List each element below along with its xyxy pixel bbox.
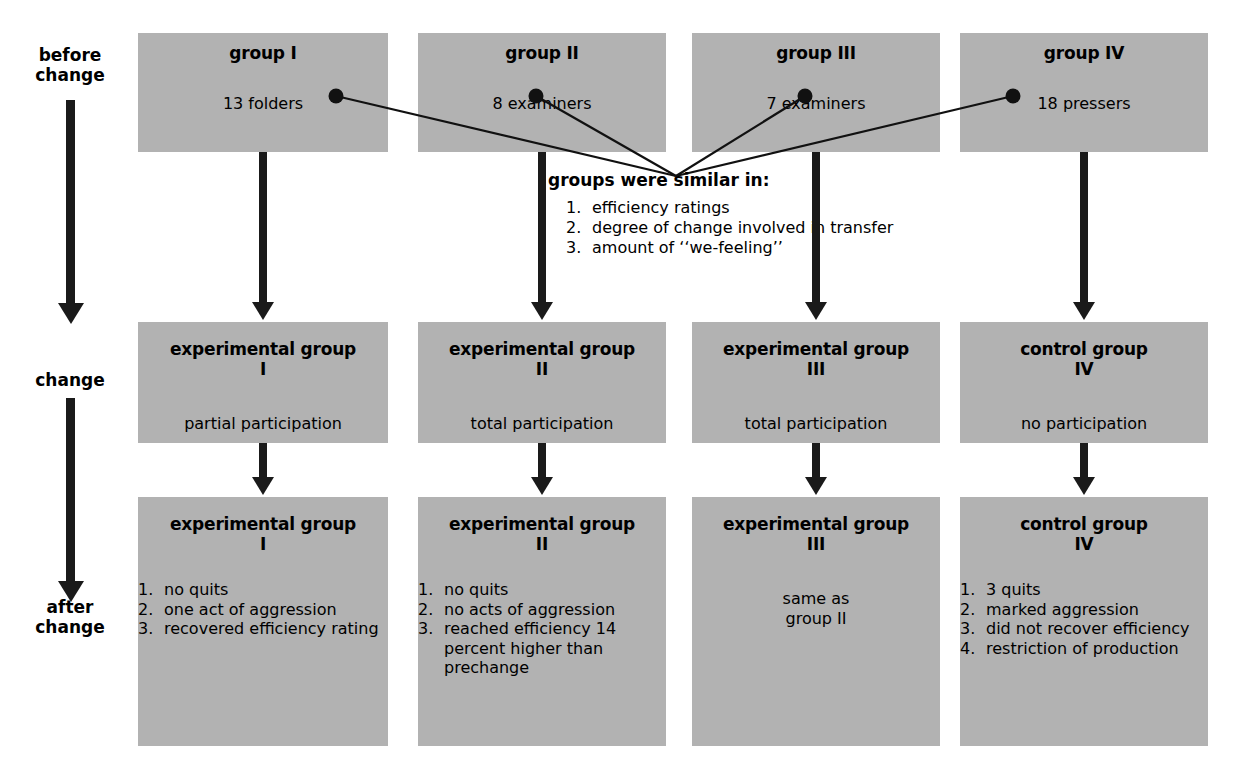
callout-list-item: 3. amount of ‘‘we-feeling’’: [566, 238, 898, 258]
callout-list: 1. efficiency ratings 2. degree of chang…: [548, 198, 898, 258]
timeline-label-before-change: before change: [10, 46, 130, 85]
box-title-numeral: III: [807, 359, 825, 379]
box-before-group-4: group IV 18 pressers: [960, 33, 1208, 152]
box-subtext: 18 pressers: [960, 94, 1208, 113]
outcome-list-item: 1. no quits: [138, 580, 388, 600]
box-title-text: experimental group: [723, 514, 909, 534]
box-subtext: 7 examiners: [692, 94, 940, 113]
list-text: efficiency ratings: [592, 198, 730, 217]
box-title: control group IV: [960, 339, 1208, 379]
outcome-list-item: 1. no quits: [418, 580, 666, 600]
list-text: degree of change involved in transfer: [592, 218, 893, 237]
outcome-list-item: 2. no acts of aggression: [418, 600, 666, 620]
outcome-list-item: 3. reached efficiency 14 percent higher …: [418, 619, 666, 678]
diagram-canvas: before change change after change group …: [0, 0, 1245, 776]
list-text: no acts of aggression: [444, 600, 615, 619]
box-before-group-1: group I 13 folders: [138, 33, 388, 152]
list-number: 1.: [566, 198, 581, 218]
box-title: group III: [692, 43, 940, 63]
timeline-label-after-change: after change: [10, 598, 130, 637]
list-text: recovered efficiency rating: [164, 619, 379, 638]
callout-list-item: 1. efficiency ratings: [566, 198, 898, 218]
box-change-group-3: experimental group III total participati…: [692, 322, 940, 443]
list-text: one act of aggression: [164, 600, 337, 619]
list-text: marked aggression: [986, 600, 1139, 619]
box-title-numeral: I: [260, 359, 266, 379]
box-subtext: total participation: [418, 414, 666, 433]
box-change-group-4: control group IV no participation: [960, 322, 1208, 443]
box-after-group-2: experimental group II 1. no quits 2. no …: [418, 497, 666, 746]
timeline-arrowhead-1: [58, 303, 84, 324]
box-subtext: partial participation: [138, 414, 388, 433]
list-number: 1.: [960, 580, 975, 600]
box-title-text: experimental group: [449, 514, 635, 534]
list-number: 1.: [138, 580, 153, 600]
list-number: 3.: [138, 619, 153, 639]
list-number: 2.: [566, 218, 581, 238]
box-title: group II: [418, 43, 666, 63]
timeline-label-change: change: [10, 371, 130, 391]
timeline-shaft-1: [66, 100, 75, 305]
box-before-group-3: group III 7 examiners: [692, 33, 940, 152]
box-title: experimental group III: [692, 339, 940, 379]
list-text: did not recover efficiency: [986, 619, 1190, 638]
outcome-list-item: 1. 3 quits: [960, 580, 1208, 600]
box-title: experimental group II: [418, 339, 666, 379]
box-subtext: same as group II: [692, 589, 940, 629]
box-after-group-3: experimental group III same as group II: [692, 497, 940, 746]
box-title-text: experimental group: [449, 339, 635, 359]
box-change-group-1: experimental group I partial participati…: [138, 322, 388, 443]
box-after-group-4: control group IV 1. 3 quits 2. marked ag…: [960, 497, 1208, 746]
box-title-numeral: II: [536, 534, 548, 554]
box-title-text: control group: [1020, 339, 1148, 359]
outcome-list: 1. no quits 2. one act of aggression 3. …: [138, 580, 388, 639]
outcome-list-item: 4. restriction of production: [960, 639, 1208, 659]
box-subtext: total participation: [692, 414, 940, 433]
list-text: reached efficiency 14 percent higher tha…: [444, 619, 616, 677]
list-number: 2.: [138, 600, 153, 620]
outcome-list-item: 2. one act of aggression: [138, 600, 388, 620]
outcome-list: 1. no quits 2. no acts of aggression 3. …: [418, 580, 666, 678]
groups-similar-callout: groups were similar in: 1. efficiency ra…: [548, 170, 898, 258]
box-title-numeral: IV: [1074, 534, 1093, 554]
box-title: group IV: [960, 43, 1208, 63]
box-title-text: experimental group: [723, 339, 909, 359]
box-title: experimental group III: [692, 514, 940, 554]
list-number: 2.: [960, 600, 975, 620]
callout-title: groups were similar in:: [548, 170, 898, 190]
list-text: restriction of production: [986, 639, 1179, 658]
box-before-group-2: group II 8 examiners: [418, 33, 666, 152]
list-number: 3.: [418, 619, 433, 639]
box-subtext: no participation: [960, 414, 1208, 433]
list-number: 2.: [418, 600, 433, 620]
box-title-text: experimental group: [170, 514, 356, 534]
list-number: 3.: [566, 238, 581, 258]
list-text: 3 quits: [986, 580, 1041, 599]
box-after-group-1: experimental group I 1. no quits 2. one …: [138, 497, 388, 746]
timeline-shaft-2: [66, 398, 75, 583]
box-change-group-2: experimental group II total participatio…: [418, 322, 666, 443]
outcome-list-item: 3. recovered efficiency rating: [138, 619, 388, 639]
box-title-text: control group: [1020, 514, 1148, 534]
box-title-numeral: III: [807, 534, 825, 554]
list-number: 3.: [960, 619, 975, 639]
box-title: control group IV: [960, 514, 1208, 554]
box-title-text: experimental group: [170, 339, 356, 359]
box-title: experimental group I: [138, 339, 388, 379]
callout-list-item: 2. degree of change involved in transfer: [566, 218, 898, 238]
list-text: no quits: [444, 580, 508, 599]
list-number: 4.: [960, 639, 975, 659]
outcome-list-item: 2. marked aggression: [960, 600, 1208, 620]
box-title: experimental group II: [418, 514, 666, 554]
list-text: amount of ‘‘we-feeling’’: [592, 238, 783, 257]
box-title-numeral: I: [260, 534, 266, 554]
outcome-list-item: 3. did not recover efficiency: [960, 619, 1208, 639]
box-subtext: 13 folders: [138, 94, 388, 113]
box-title: experimental group I: [138, 514, 388, 554]
box-title-numeral: IV: [1074, 359, 1093, 379]
box-title: group I: [138, 43, 388, 63]
box-title-numeral: II: [536, 359, 548, 379]
list-number: 1.: [418, 580, 433, 600]
box-subtext: 8 examiners: [418, 94, 666, 113]
list-text: no quits: [164, 580, 228, 599]
